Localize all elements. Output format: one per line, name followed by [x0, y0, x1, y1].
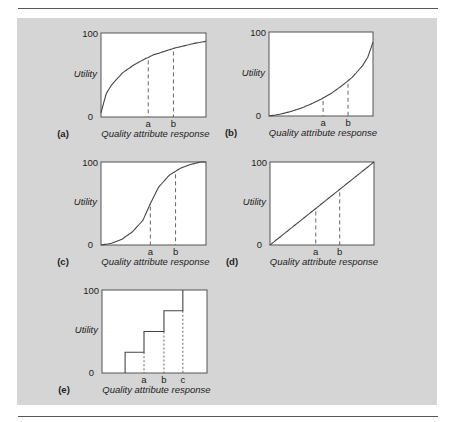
x-axis-label: Quality attribute response [270, 256, 378, 267]
panel-label-a: (a) [57, 128, 69, 139]
y-axis-label: Utility [243, 196, 267, 207]
plot-area [101, 33, 206, 117]
x-axis-label: Quality attribute response [101, 256, 209, 267]
panel-label-c: (c) [57, 256, 69, 267]
y-tick-0: 0 [88, 239, 93, 250]
y-tick-100: 100 [251, 157, 267, 168]
x-axis-label: Quality attribute response [101, 128, 209, 139]
plot-area [101, 162, 206, 245]
y-tick-0: 0 [89, 367, 94, 378]
panel-label-e: (e) [58, 384, 70, 395]
chart-b: ab1000UtilityQuality attribute response(… [225, 27, 377, 138]
y-axis-label: Utility [75, 324, 99, 335]
y-axis-label: Utility [74, 68, 98, 79]
y-axis-label: Utility [242, 67, 266, 78]
y-tick-100: 100 [83, 285, 99, 296]
chart-a: ab1000UtilityQuality attribute response(… [57, 28, 209, 139]
y-tick-0: 0 [88, 111, 93, 122]
panel-label-b: (b) [225, 127, 237, 138]
y-tick-100: 100 [250, 27, 266, 38]
y-tick-0: 0 [257, 239, 262, 250]
chart-c: ab1000UtilityQuality attribute response(… [57, 157, 209, 267]
y-axis-label: Utility [74, 196, 98, 207]
y-tick-100: 100 [82, 157, 98, 168]
x-axis-label: Quality attribute response [269, 127, 377, 138]
y-tick-100: 100 [82, 28, 98, 39]
figure: ab1000UtilityQuality attribute response(… [0, 0, 453, 422]
x-axis-label: Quality attribute response [102, 384, 210, 395]
chart-e: abc1000UtilityQuality attribute response… [58, 285, 210, 395]
plot-area [269, 32, 373, 116]
y-tick-0: 0 [256, 110, 261, 121]
panel-label-d: (d) [226, 256, 238, 267]
chart-d: ab1000UtilityQuality attribute response(… [226, 157, 378, 267]
